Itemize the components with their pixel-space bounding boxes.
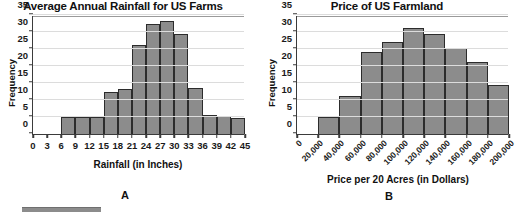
histogram-bar — [488, 85, 509, 134]
x-tick-label: 42 — [226, 140, 237, 151]
plot-area-a: 05101520253035 0369121518212427303336394… — [32, 16, 244, 135]
histogram-bar — [118, 89, 132, 134]
x-tick-mark — [89, 134, 91, 138]
x-axis-label-a: Rainfall (in Inches) — [32, 159, 244, 170]
x-axis-label-b: Price per 20 Acres (in Dollars) — [288, 174, 508, 185]
gridline — [297, 31, 508, 32]
x-tick-label: 39 — [211, 140, 222, 151]
histogram-bar — [90, 117, 104, 134]
footer-rule — [22, 207, 101, 212]
y-tick-label: 20 — [17, 50, 33, 61]
histogram-bar — [231, 118, 245, 134]
gridline — [297, 14, 508, 15]
gridline — [297, 48, 508, 49]
y-tick-label: 15 — [17, 67, 33, 78]
gridline — [297, 99, 508, 100]
histogram-bar — [445, 48, 466, 134]
y-tick-mark — [293, 30, 297, 32]
panel-letter-b: B — [385, 190, 393, 202]
histogram-bar — [382, 42, 403, 134]
y-axis-label-b: Frequency — [266, 59, 277, 107]
y-axis-label-a: Frequency — [6, 59, 17, 107]
x-tick-mark — [244, 134, 246, 138]
y-tick-label: 30 — [281, 16, 297, 27]
x-tick-label: 24 — [141, 140, 152, 151]
histogram-bar — [174, 34, 188, 134]
y-tick-label: 10 — [17, 84, 33, 95]
x-tick-label: 3 — [44, 140, 49, 151]
x-tick-label: 18 — [113, 140, 124, 151]
x-tick-label: 45 — [240, 140, 251, 151]
y-tick-mark — [29, 115, 33, 117]
x-tick-label: 12 — [84, 140, 95, 151]
gridline — [297, 82, 508, 83]
histogram-bar — [75, 117, 89, 134]
y-tick-label: 0 — [287, 118, 297, 129]
y-tick-label: 10 — [281, 84, 297, 95]
y-tick-label: 15 — [281, 67, 297, 78]
histogram-bar — [403, 28, 424, 134]
panel-a: Average Annual Rainfall for US Farms Fre… — [0, 0, 258, 217]
gridline — [297, 116, 508, 117]
plot-area-b: 05101520253035 020,00040,00060,00080,000… — [296, 16, 508, 135]
x-tick-mark — [230, 134, 232, 138]
gridline — [33, 14, 244, 15]
gridline — [297, 65, 508, 66]
chart-title-a: Average Annual Rainfall for US Farms — [0, 0, 252, 12]
y-tick-label: 5 — [23, 101, 33, 112]
histogram-bar — [61, 117, 75, 134]
x-tick-mark — [188, 134, 190, 138]
y-tick-mark — [293, 115, 297, 117]
x-tick-label: 15 — [98, 140, 109, 151]
x-tick-mark — [131, 134, 133, 138]
y-tick-mark — [29, 98, 33, 100]
y-tick-label: 0 — [23, 118, 33, 129]
histogram-bar — [203, 115, 217, 134]
y-tick-label: 20 — [281, 50, 297, 61]
x-tick-mark — [145, 134, 147, 138]
x-tick-mark — [103, 134, 105, 138]
x-tick-mark — [174, 134, 176, 138]
panel-letter-a: A — [121, 189, 129, 201]
y-tick-mark — [293, 98, 297, 100]
x-tick-label: 33 — [183, 140, 194, 151]
y-tick-label: 30 — [17, 16, 33, 27]
x-tick-label: 27 — [155, 140, 166, 151]
x-tick-mark — [46, 134, 48, 138]
gridline — [33, 116, 244, 117]
y-tick-label: 25 — [281, 33, 297, 44]
y-tick-mark — [29, 81, 33, 83]
y-tick-mark — [293, 81, 297, 83]
x-tick-label: 9 — [73, 140, 78, 151]
histogram-bar — [217, 116, 231, 134]
gridline — [33, 99, 244, 100]
histogram-bar — [318, 117, 339, 134]
x-tick-mark — [75, 134, 77, 138]
x-tick-mark — [32, 134, 34, 138]
y-tick-label: 5 — [287, 101, 297, 112]
histogram-bar — [467, 62, 488, 134]
gridline — [33, 65, 244, 66]
y-tick-mark — [29, 64, 33, 66]
gridline — [33, 31, 244, 32]
x-tick-label: 30 — [169, 140, 180, 151]
x-tick-label: 36 — [197, 140, 208, 151]
histogram-bar — [188, 88, 202, 134]
x-tick-mark — [117, 134, 119, 138]
histogram-bar — [424, 34, 445, 134]
x-tick-label: 0 — [30, 140, 35, 151]
histogram-bar — [339, 96, 360, 134]
x-tick-label: 21 — [127, 140, 138, 151]
y-tick-label: 35 — [281, 0, 297, 10]
x-tick-label: 6 — [59, 140, 64, 151]
y-tick-mark — [293, 47, 297, 49]
y-tick-label: 25 — [17, 33, 33, 44]
y-tick-mark — [29, 47, 33, 49]
y-tick-mark — [293, 64, 297, 66]
gridline — [33, 82, 244, 83]
y-tick-mark — [29, 30, 33, 32]
y-tick-label: 35 — [17, 0, 33, 10]
y-tick-mark — [293, 13, 297, 15]
x-tick-mark — [216, 134, 218, 138]
x-tick-mark — [61, 134, 63, 138]
